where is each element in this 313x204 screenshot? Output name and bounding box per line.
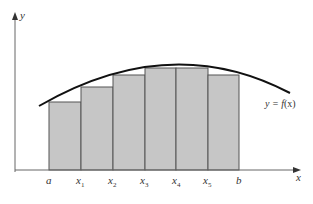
curve-label-prefix: y =	[264, 98, 281, 109]
tick-label-x1: x1	[75, 174, 85, 189]
curve-label-arg: (x)	[284, 98, 296, 110]
rectangle-6	[208, 75, 239, 170]
rectangle-3	[113, 75, 145, 170]
rectangle-2	[81, 87, 113, 170]
tick-label-b: b	[236, 174, 242, 186]
tick-label-a: a	[46, 174, 52, 186]
tick-labels: a x1 x2 x3 x4 x5 b	[46, 174, 242, 189]
rectangle-5	[176, 68, 208, 170]
tick-label-x5: x5	[202, 174, 212, 189]
rectangles	[49, 68, 239, 170]
rectangle-1	[49, 102, 81, 170]
x-axis-label: x	[295, 171, 301, 183]
tick-label-x3: x3	[139, 174, 149, 189]
curve-label: y = f(x)	[264, 98, 296, 110]
y-axis-label: y	[19, 9, 25, 21]
rectangle-4	[145, 68, 176, 170]
tick-label-x2: x2	[107, 174, 117, 189]
y-axis-arrow-icon	[12, 12, 18, 20]
riemann-sum-diagram: y x y = f(x) a x1 x2 x3 x4 x5 b	[0, 0, 313, 204]
tick-label-x4: x4	[171, 174, 181, 189]
